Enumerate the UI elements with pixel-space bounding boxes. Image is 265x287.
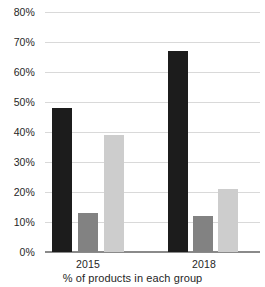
bar-2015-series-3 (104, 135, 124, 252)
bar-2018-series-1 (168, 51, 188, 252)
y-tick-label-60: 60% (14, 66, 35, 78)
y-tick-label-20: 20% (14, 186, 35, 198)
y-tick-label-70: 70% (14, 36, 35, 48)
bars-layer (45, 12, 260, 252)
y-tick-label-10: 10% (14, 216, 35, 228)
bar-2015-series-1 (52, 108, 72, 252)
bar-chart: 80% 70% 60% 50% 40% 30% 20% 10% 0% (0, 0, 265, 287)
y-tick-label-40: 40% (14, 126, 35, 138)
bar-2015-series-2 (78, 213, 98, 252)
x-group-label-2018: 2018 (192, 258, 216, 270)
bar-2018-series-3 (218, 189, 238, 252)
y-tick-label-0: 0% (20, 246, 35, 258)
y-tick-label-80: 80% (14, 6, 35, 18)
y-axis-tick-labels: 80% 70% 60% 50% 40% 30% 20% 10% 0% (0, 12, 42, 252)
y-tick-label-30: 30% (14, 156, 35, 168)
plot-area (45, 12, 260, 252)
x-group-label-2015: 2015 (76, 258, 100, 270)
chart-caption: % of products in each group (0, 272, 265, 284)
y-tick-label-50: 50% (14, 96, 35, 108)
bar-2018-series-2 (193, 216, 213, 252)
